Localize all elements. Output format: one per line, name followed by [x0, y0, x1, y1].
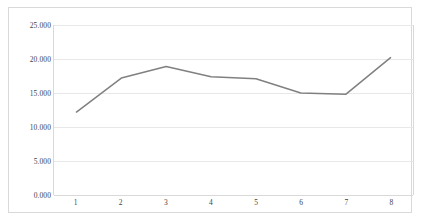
chart-screenshot: 0.0005.00010.00015.00020.00025.000 12345… — [0, 0, 423, 223]
x-axis-tick-labels: 12345678 — [53, 198, 414, 214]
y-axis-label: 10.000 — [17, 123, 51, 132]
x-axis-label: 8 — [390, 198, 394, 207]
y-axis-label: 0.000 — [17, 191, 51, 200]
x-axis-label: 3 — [164, 198, 168, 207]
plot-area — [53, 25, 414, 195]
line-series-svg — [54, 25, 413, 195]
y-axis-label: 5.000 — [17, 157, 51, 166]
y-axis-label: 15.000 — [17, 89, 51, 98]
x-axis-label: 2 — [119, 198, 123, 207]
x-axis-label: 1 — [74, 198, 78, 207]
chart-frame: 0.0005.00010.00015.00020.00025.000 12345… — [8, 7, 412, 213]
y-axis-label: 20.000 — [17, 55, 51, 64]
gridline — [54, 195, 413, 196]
x-axis-label: 5 — [254, 198, 258, 207]
x-axis-label: 4 — [209, 198, 213, 207]
y-axis-tick-labels: 0.0005.00010.00015.00020.00025.000 — [17, 8, 51, 212]
y-axis-label: 25.000 — [17, 21, 51, 30]
line-series-path — [76, 58, 390, 112]
x-axis-label: 6 — [299, 198, 303, 207]
x-axis-label: 7 — [344, 198, 348, 207]
